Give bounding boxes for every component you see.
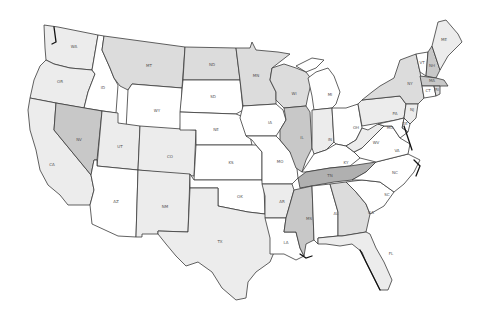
state-ia[interactable] <box>240 104 286 136</box>
state-sd[interactable] <box>180 80 243 114</box>
us-choropleth-map: WA OR CA ID NV MT WY UT AZ CO NM ND SD N… <box>0 0 480 321</box>
state-co[interactable] <box>138 126 196 176</box>
label-fl: FL <box>389 251 394 256</box>
state-ma[interactable] <box>420 76 448 86</box>
state-ks[interactable] <box>194 145 262 180</box>
state-ct[interactable] <box>422 86 436 98</box>
state-nm[interactable] <box>136 170 190 237</box>
state-az[interactable] <box>90 160 138 237</box>
state-nd[interactable] <box>183 47 240 80</box>
state-ny[interactable] <box>362 54 424 104</box>
state-fl[interactable] <box>318 232 392 290</box>
